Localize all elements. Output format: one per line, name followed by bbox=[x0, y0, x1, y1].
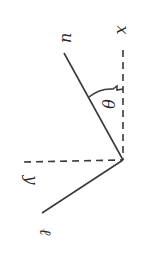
geometry-diagram: x u θ y ℓ bbox=[0, 0, 151, 262]
y-axis-label: y bbox=[22, 174, 41, 185]
theta-arc bbox=[89, 86, 123, 97]
y-axis-dashed-line bbox=[24, 160, 123, 162]
l-line-label: ℓ bbox=[36, 229, 55, 236]
x-axis-label: x bbox=[113, 25, 132, 34]
theta-label: θ bbox=[98, 99, 117, 109]
u-line-label: u bbox=[58, 33, 77, 43]
l-line bbox=[42, 160, 123, 213]
